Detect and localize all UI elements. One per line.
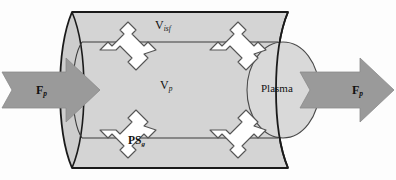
label-f-p-outflow-subscript: p (359, 89, 363, 98)
label-f-p-inflow: Fp (36, 84, 47, 97)
label-f-p-outflow: Fp (352, 84, 363, 97)
label-v-isf: Visf (155, 19, 171, 32)
diagram-canvas: Visf Vp PSg Plasma Fp Fp (0, 0, 396, 180)
label-v-p: Vp (160, 79, 172, 92)
label-plasma: Plasma (261, 83, 293, 94)
label-ps-g-subscript: g (141, 140, 145, 148)
label-v-isf-subscript: isf (164, 24, 171, 33)
diagram-svg (0, 0, 396, 180)
label-ps-g-base: PS (128, 134, 141, 146)
label-f-p-inflow-subscript: p (43, 89, 47, 98)
label-v-p-base: V (160, 78, 169, 92)
label-ps-g: PSg (128, 135, 145, 148)
label-v-isf-base: V (155, 18, 164, 32)
label-v-p-subscript: p (169, 84, 173, 93)
